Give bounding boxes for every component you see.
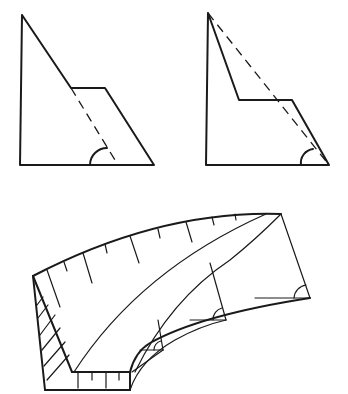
angle-arc-icon	[90, 148, 107, 165]
angle-arc-icon	[154, 341, 161, 350]
angle-arc-icon	[301, 149, 313, 165]
top-right-triangle	[206, 13, 329, 165]
diagram-canvas	[0, 0, 348, 394]
tick-marks-bottom	[78, 372, 119, 388]
curved-wedge	[33, 214, 310, 390]
diagram-svg	[0, 0, 348, 394]
top-left-triangle	[20, 15, 154, 165]
angle-arc-icon	[294, 285, 306, 298]
